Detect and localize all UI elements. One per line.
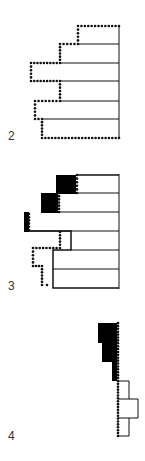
outline-dot: [43, 62, 46, 65]
figure-2-dotted-outline: [30, 25, 121, 140]
outline-dot: [59, 234, 62, 237]
outline-dot: [77, 25, 80, 28]
outline-dot: [32, 261, 35, 264]
outline-dot: [32, 254, 35, 257]
outline-dot: [41, 284, 44, 287]
outline-dot: [49, 62, 52, 65]
outline-dot: [59, 247, 62, 250]
outline-dot: [52, 247, 55, 250]
outline-dot: [41, 100, 44, 103]
outline-dot: [46, 80, 49, 83]
outline-dot: [41, 265, 44, 268]
outline-dot: [59, 46, 62, 49]
outline-dot: [34, 100, 37, 103]
outline-dot: [117, 406, 120, 409]
outline-dot: [59, 231, 62, 234]
outline-dot: [43, 80, 46, 83]
outline-dot: [30, 76, 33, 79]
outline-dot: [104, 25, 107, 28]
outline-dot: [59, 237, 62, 240]
outline-dot: [117, 356, 120, 359]
outline-dot: [37, 118, 40, 121]
outline-dot: [58, 198, 61, 201]
outline-dot: [117, 426, 120, 429]
outline-dot: [117, 359, 120, 362]
outline-dot: [81, 137, 84, 140]
outline-dot: [59, 80, 62, 83]
outline-dot: [77, 32, 80, 35]
outline-dot: [94, 25, 97, 28]
outline-dot: [55, 62, 58, 65]
outline-dot: [117, 403, 120, 406]
outline-dot: [41, 274, 44, 277]
outline-dot: [55, 80, 58, 83]
outline-dot: [117, 368, 120, 371]
outline-dot: [55, 100, 58, 103]
outline-dot: [36, 80, 39, 83]
outline-dot: [117, 432, 120, 435]
outline-dot: [117, 420, 120, 423]
outline-dot: [52, 80, 55, 83]
outline-dot: [76, 177, 79, 180]
outline-dot: [117, 351, 120, 354]
outline-dot: [41, 127, 44, 130]
outline-dot: [77, 43, 80, 46]
outline-dot: [41, 268, 44, 271]
outline-dot: [98, 137, 101, 140]
outline-dot: [41, 277, 44, 280]
outline-dot: [41, 118, 44, 121]
outline-dot: [59, 62, 62, 65]
fig4-block: [98, 323, 117, 343]
outline-dot: [117, 435, 120, 438]
outline-dot: [28, 213, 31, 216]
outline-dot: [111, 137, 114, 140]
outline-dot: [73, 43, 76, 46]
outline-dot: [117, 325, 120, 328]
outline-dot: [117, 412, 120, 415]
outline-dot: [117, 336, 120, 339]
outline-dot: [49, 247, 52, 250]
outline-dot: [117, 429, 120, 432]
outline-dot: [52, 62, 55, 65]
outline-dot: [97, 25, 100, 28]
outline-dot: [59, 86, 62, 89]
outline-dot: [117, 377, 120, 380]
outline-dot: [117, 383, 120, 386]
outline-dot: [117, 409, 120, 412]
outline-dot: [77, 36, 80, 39]
outline-dot: [114, 137, 117, 140]
outline-dot: [67, 137, 70, 140]
figure-2: [42, 26, 119, 139]
outline-dot: [42, 247, 45, 250]
outline-dot: [33, 80, 36, 83]
outline-dot: [76, 188, 79, 191]
outline-dot: [117, 322, 120, 325]
outline-dot: [48, 100, 51, 103]
outline-dot: [34, 118, 37, 121]
figure-4: [118, 381, 138, 436]
outline-dot: [58, 204, 61, 207]
outline-dot: [41, 130, 44, 133]
outline-dot: [91, 137, 94, 140]
outline-dot: [37, 100, 40, 103]
outline-dot: [94, 137, 97, 140]
outline-dot: [33, 62, 36, 65]
outline-dot: [117, 339, 120, 342]
outline-dot: [32, 247, 35, 250]
outline-dot: [30, 80, 33, 83]
outline-dot: [39, 62, 42, 65]
outline-dot: [84, 25, 87, 28]
outline-dot: [117, 391, 120, 394]
fig4-block: [102, 342, 117, 362]
outline-dot: [117, 330, 120, 333]
outline-dot: [59, 96, 62, 99]
outline-dot: [117, 400, 120, 403]
outline-dot: [28, 229, 31, 232]
outline-dot: [117, 397, 120, 400]
outline-dot: [117, 354, 120, 357]
outline-dot: [38, 247, 41, 250]
outline-dot: [117, 394, 120, 397]
outline-dot: [51, 137, 54, 140]
outline-dot: [62, 43, 65, 46]
fig4-block: [112, 361, 117, 381]
